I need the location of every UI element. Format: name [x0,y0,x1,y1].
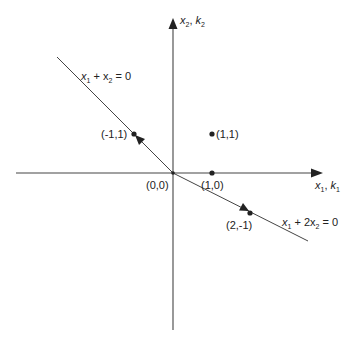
vertical-axis-arrow-icon [169,18,178,29]
point-2-minus1 [247,210,252,215]
point-label-minus1-1: (-1,1) [101,128,127,140]
point-1-0 [209,170,214,175]
point-label-origin: (0,0) [146,179,169,191]
point-minus1-1 [131,131,136,136]
line-label-x1-plus-2x2: x1 + 2x2 = 0 [281,216,338,230]
point-label-2-minus1: (2,-1) [226,219,252,231]
point-label-1-1: (1,1) [216,128,239,140]
origin-dot [171,171,175,175]
vertical-axis-label: x2, k2 [179,14,205,28]
point-1-1 [209,131,214,136]
diagram-canvas: (1,1) (1,0) (-1,1) (2,-1) (0,0) x2, k2 x… [0,0,353,344]
horizontal-axis-label: x1, k1 [314,179,340,193]
line-label-x1-plus-x2: x1 + x2 = 0 [80,70,131,84]
point-label-1-0: (1,0) [201,179,224,191]
horizontal-axis-arrow-icon [311,169,323,178]
